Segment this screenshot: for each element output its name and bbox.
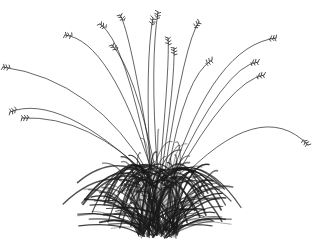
grass-clump	[63, 129, 241, 238]
seed-head-spikelet	[21, 118, 22, 121]
seed-head-spikelet	[9, 112, 10, 115]
seed-head-spikelet	[4, 67, 6, 69]
seed-head-spikelet	[168, 41, 171, 43]
seed-head-spikelet	[304, 142, 305, 145]
seed-head-spikelet	[174, 54, 177, 55]
seed-head-spikelet	[124, 18, 125, 21]
seed-head-spikelet	[264, 72, 265, 75]
seed-head-spikelet	[165, 37, 168, 38]
flowering-stem	[100, 24, 150, 168]
seed-head-spikelet	[261, 72, 262, 75]
flowering-stem	[178, 127, 308, 182]
flowering-stems	[3, 12, 308, 182]
seed-heads	[1, 10, 310, 146]
seed-head-spikelet	[106, 25, 107, 28]
seed-head-spikelet	[9, 65, 10, 68]
seed-head-spikelet	[12, 108, 14, 110]
seed-head-spikelet	[308, 144, 311, 145]
seed-head-spikelet	[117, 15, 120, 16]
seed-head-spikelet	[209, 58, 210, 61]
seed-head-spikelet	[198, 23, 201, 24]
seed-head-spikelet	[196, 21, 197, 24]
seed-head-spikelet	[122, 16, 124, 18]
seed-head-spikelet	[157, 16, 160, 17]
illustration-canvas: ornamental grass clump	[0, 0, 316, 244]
seed-head-spikelet	[97, 24, 100, 25]
seed-head-spikelet	[109, 45, 112, 46]
seed-head-spikelet	[10, 109, 12, 111]
seed-head-spikelet	[211, 61, 213, 63]
seed-head-spikelet	[155, 15, 157, 17]
seed-head-spikelet	[151, 16, 153, 18]
seed-head-spikelet	[263, 75, 265, 77]
seed-head-spikelet	[168, 37, 170, 39]
seed-head-spikelet	[275, 38, 276, 41]
seed-head-spikelet	[306, 142, 309, 143]
seed-head-spikelet	[100, 26, 102, 28]
seed-head-spikelet	[169, 44, 172, 45]
seed-head-spikelet	[257, 62, 259, 65]
seed-head-spikelet	[64, 35, 65, 38]
seed-head-spikelet	[113, 43, 114, 46]
flowering-stem	[174, 75, 264, 180]
seed-head-spikelet	[276, 35, 277, 38]
seed-head-spikelet	[258, 59, 259, 62]
seed-head-spikelet	[270, 36, 271, 39]
seed-head-spikelet	[302, 140, 304, 143]
seed-head-spikelet	[121, 13, 122, 16]
seed-head-spikelet	[251, 63, 252, 66]
flowering-stem	[172, 38, 276, 175]
seed-head-spikelet	[198, 19, 199, 22]
seed-head-spikelet	[7, 68, 9, 70]
grass-illustration	[0, 0, 316, 244]
flowering-stem	[120, 15, 152, 165]
seed-head-spikelet	[255, 59, 256, 62]
seed-head-spikelet	[305, 144, 307, 147]
seed-head-spikelet	[113, 49, 116, 50]
seed-head-spikelet	[208, 62, 210, 64]
seed-head-spikelet	[150, 19, 152, 21]
seed-head-spikelet	[155, 13, 158, 14]
seed-head-spikelet	[150, 22, 152, 24]
seed-head-spikelet	[1, 67, 3, 70]
seed-head-spikelet	[155, 10, 158, 12]
seed-head-spikelet	[206, 60, 207, 63]
seed-head-spikelet	[194, 24, 196, 26]
seed-head-spikelet	[15, 107, 17, 109]
seed-head-spikelet	[174, 51, 177, 52]
